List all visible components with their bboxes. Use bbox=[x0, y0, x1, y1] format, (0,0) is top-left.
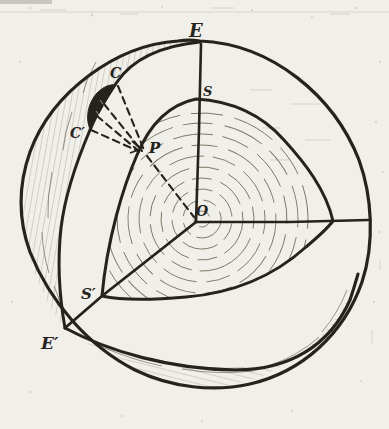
figure-canvas: E S C C′ P O S′ E′ bbox=[0, 0, 389, 429]
label-e-prime: E′ bbox=[40, 333, 59, 353]
horizontal-radius-line bbox=[196, 220, 368, 222]
label-c: C bbox=[110, 65, 121, 81]
label-s-prime: S′ bbox=[81, 285, 96, 303]
polar-axis-line bbox=[196, 44, 201, 222]
label-p: P bbox=[148, 139, 161, 157]
label-s: S bbox=[203, 84, 212, 99]
label-o: O bbox=[196, 203, 209, 219]
scanned-diagram-page: E S C C′ P O S′ E′ bbox=[0, 0, 389, 429]
label-e: E bbox=[188, 20, 203, 41]
label-c-prime: C′ bbox=[70, 125, 85, 141]
line-p-to-o bbox=[147, 156, 194, 217]
